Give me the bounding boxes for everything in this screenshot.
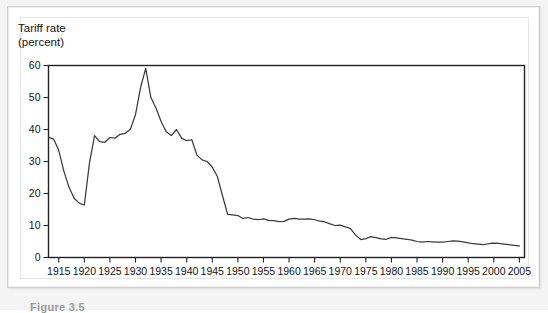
- x-tick-label-1930: 1930: [124, 265, 148, 277]
- x-tick-label-1955: 1955: [252, 265, 276, 277]
- x-tick-label-1990: 1990: [431, 265, 455, 277]
- x-tick-label-1935: 1935: [149, 265, 173, 277]
- x-axis-ticks: [59, 258, 520, 263]
- y-tick-label-60: 60: [29, 59, 41, 71]
- x-tick-label-1980: 1980: [380, 265, 404, 277]
- series-line-tariff-rate: [49, 68, 520, 246]
- x-tick-label-2005: 2005: [508, 265, 532, 277]
- x-tick-label-1975: 1975: [354, 265, 378, 277]
- x-tick-label-1920: 1920: [73, 265, 97, 277]
- y-axis-ticks: [44, 66, 49, 258]
- plot-area-frame: [49, 66, 525, 258]
- x-tick-label-1915: 1915: [47, 265, 71, 277]
- x-tick-label-1995: 1995: [457, 265, 481, 277]
- y-tick-label-20: 20: [29, 187, 41, 199]
- x-tick-label-2000: 2000: [482, 265, 506, 277]
- y-tick-label-40: 40: [29, 123, 41, 135]
- x-tick-label-1925: 1925: [98, 265, 122, 277]
- x-tick-label-1970: 1970: [329, 265, 353, 277]
- y-axis-tick-labels: 0102030405060: [29, 59, 41, 263]
- y-tick-label-30: 30: [29, 155, 41, 167]
- x-tick-label-1965: 1965: [303, 265, 327, 277]
- x-axis-tick-labels: 1915192019251930193519401945195019551960…: [47, 265, 531, 277]
- x-tick-label-1945: 1945: [201, 265, 225, 277]
- plot-border: [49, 66, 525, 258]
- x-tick-label-1940: 1940: [175, 265, 199, 277]
- y-tick-label-0: 0: [35, 251, 41, 263]
- figure-caption: Figure 3.5: [30, 301, 85, 313]
- x-tick-label-1960: 1960: [277, 265, 301, 277]
- y-tick-label-10: 10: [29, 219, 41, 231]
- y-tick-label-50: 50: [29, 91, 41, 103]
- x-tick-label-1985: 1985: [405, 265, 429, 277]
- x-tick-label-1950: 1950: [226, 265, 250, 277]
